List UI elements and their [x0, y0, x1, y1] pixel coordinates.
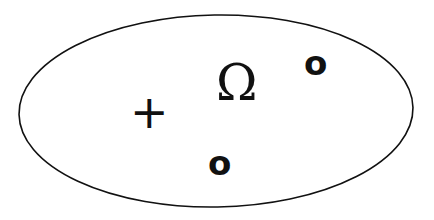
circle-outcome-top-right: o [304, 46, 327, 80]
diagram-canvas: Ω + o o [0, 0, 434, 220]
circle-outcome-bottom: o [208, 146, 231, 180]
omega-label: Ω [216, 58, 257, 108]
plus-outcome: + [130, 89, 169, 135]
